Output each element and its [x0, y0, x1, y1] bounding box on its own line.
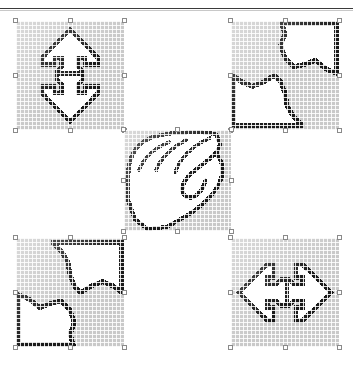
resize-handle-w[interactable]: [13, 73, 18, 78]
bitmap-object-s-curve-split-rotated[interactable]: [16, 238, 124, 347]
resize-handle-e[interactable]: [229, 178, 234, 183]
shape-arrow-up: [42, 30, 98, 78]
top-divider-rule-shadow: [0, 10, 353, 11]
top-divider-rule: [0, 8, 353, 9]
resize-handle-s[interactable]: [175, 229, 180, 234]
resize-handle-e[interactable]: [122, 73, 127, 78]
resize-handle-nw[interactable]: [121, 127, 126, 132]
shape-lower-region: [53, 242, 122, 292]
resize-handle-ne[interactable]: [337, 18, 342, 23]
resize-handle-nw[interactable]: [13, 235, 18, 240]
resize-handle-e[interactable]: [122, 290, 127, 295]
resize-handle-se[interactable]: [337, 345, 342, 350]
resize-handle-se[interactable]: [122, 345, 127, 350]
resize-handle-sw[interactable]: [13, 345, 18, 350]
resize-handle-sw[interactable]: [13, 128, 18, 133]
bitmap-surface[interactable]: [231, 238, 339, 347]
resize-handle-ne[interactable]: [122, 235, 127, 240]
resize-handle-n[interactable]: [283, 18, 288, 23]
bitmap-surface[interactable]: [124, 130, 231, 231]
resize-handle-n[interactable]: [68, 235, 73, 240]
resize-handle-nw[interactable]: [228, 235, 233, 240]
bitmap-object-double-arrow-vertical[interactable]: [16, 21, 124, 130]
resize-handle-e[interactable]: [337, 290, 342, 295]
resize-handle-w[interactable]: [13, 290, 18, 295]
resize-handle-nw[interactable]: [228, 18, 233, 23]
resize-handle-se[interactable]: [229, 229, 234, 234]
resize-handle-s[interactable]: [68, 345, 73, 350]
bitmap-object-double-arrow-horizontal[interactable]: [231, 238, 339, 347]
bitmap-surface[interactable]: [16, 21, 124, 130]
bitmap-object-s-curve-split[interactable]: [231, 21, 339, 130]
resize-handle-ne[interactable]: [122, 18, 127, 23]
resize-handle-ne[interactable]: [337, 235, 342, 240]
resize-handle-w[interactable]: [228, 290, 233, 295]
resize-handle-w[interactable]: [228, 73, 233, 78]
resize-handle-s[interactable]: [283, 128, 288, 133]
shape-arrow-left: [283, 264, 331, 320]
shape-arrow-right: [239, 264, 287, 320]
shape-upper-region: [18, 295, 74, 345]
canvas-root[interactable]: [0, 0, 353, 367]
resize-handle-s[interactable]: [68, 128, 73, 133]
resize-handle-n[interactable]: [68, 18, 73, 23]
shape-upper-region: [281, 23, 337, 73]
resize-handle-e[interactable]: [337, 73, 342, 78]
resize-handle-sw[interactable]: [121, 229, 126, 234]
resize-handle-se[interactable]: [337, 128, 342, 133]
resize-handle-ne[interactable]: [229, 127, 234, 132]
resize-handle-n[interactable]: [175, 127, 180, 132]
resize-handle-w[interactable]: [121, 178, 126, 183]
resize-handle-sw[interactable]: [228, 345, 233, 350]
resize-handle-n[interactable]: [283, 235, 288, 240]
shape-lower-region: [233, 76, 302, 126]
shape-arrow-down: [42, 73, 98, 121]
resize-handle-nw[interactable]: [13, 18, 18, 23]
bitmap-surface[interactable]: [16, 238, 124, 347]
bitmap-object-hand-outline[interactable]: [124, 130, 231, 231]
bitmap-surface[interactable]: [231, 21, 339, 130]
resize-handle-s[interactable]: [283, 345, 288, 350]
